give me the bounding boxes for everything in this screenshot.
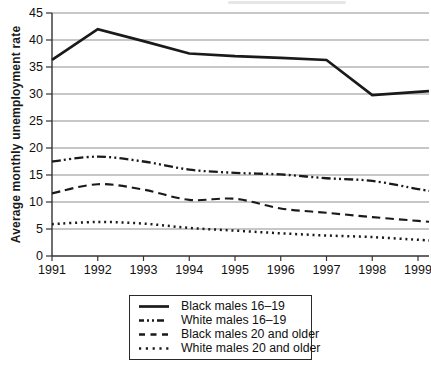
x-tick-label: 1996 bbox=[267, 263, 295, 277]
x-tick-label: 1995 bbox=[221, 263, 249, 277]
y-tick-label: 30 bbox=[29, 87, 43, 101]
legend-box: Black males 16–19 White males 16–19 Blac… bbox=[129, 295, 312, 360]
y-tick-label: 35 bbox=[29, 60, 43, 74]
y-tick-label: 25 bbox=[29, 114, 43, 128]
x-tick-label: 1999 bbox=[404, 263, 431, 277]
y-tick-label: 20 bbox=[29, 141, 43, 155]
y-tick-label: 15 bbox=[29, 168, 43, 182]
series-line-0 bbox=[52, 29, 429, 95]
x-tick-label: 1998 bbox=[358, 263, 386, 277]
y-tick-label: 5 bbox=[36, 222, 43, 236]
legend-label: Black males 20 and older bbox=[181, 328, 319, 341]
x-tick-label: 1992 bbox=[84, 263, 112, 277]
x-tick-label: 1993 bbox=[130, 263, 158, 277]
legend-item: Black males 16–19 bbox=[139, 300, 311, 313]
chart-figure: Average monthly unemployment rate 051015… bbox=[0, 0, 431, 377]
line-chart-plot: 0510152025303540451991199219931994199519… bbox=[0, 0, 431, 290]
legend-item: Black males 20 and older bbox=[139, 328, 311, 341]
series-line-1 bbox=[52, 157, 429, 191]
y-tick-label: 40 bbox=[29, 33, 43, 47]
x-tick-label: 1997 bbox=[313, 263, 341, 277]
legend-line-swatch-dash-dot-dot bbox=[139, 318, 169, 323]
y-tick-label: 10 bbox=[29, 195, 43, 209]
series-line-3 bbox=[52, 222, 429, 240]
legend-label: White males 20 and older bbox=[181, 342, 320, 355]
x-tick-label: 1994 bbox=[175, 263, 203, 277]
y-tick-label: 45 bbox=[29, 6, 43, 20]
legend-line-swatch-dashed bbox=[139, 332, 169, 337]
series-line-2 bbox=[52, 184, 429, 222]
legend-item: White males 20 and older bbox=[139, 342, 311, 355]
y-tick-label: 0 bbox=[36, 249, 43, 263]
legend-label: Black males 16–19 bbox=[181, 300, 285, 313]
legend-item: White males 16–19 bbox=[139, 314, 311, 327]
legend-label: White males 16–19 bbox=[181, 314, 286, 327]
x-tick-label: 1991 bbox=[38, 263, 66, 277]
legend-line-swatch-dotted bbox=[139, 346, 169, 351]
legend-line-swatch-solid bbox=[139, 304, 169, 309]
